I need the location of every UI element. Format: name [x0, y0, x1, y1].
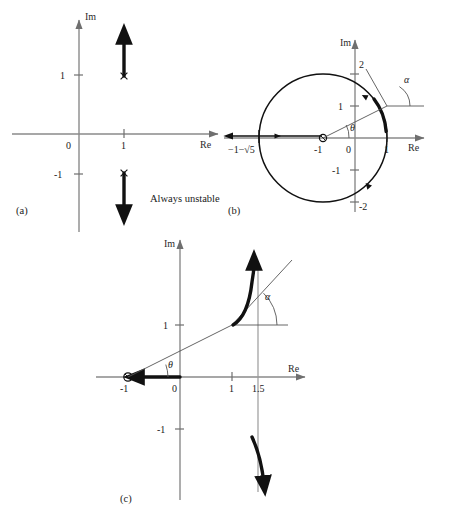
panel-c-label-zero-minus1: -1: [120, 383, 128, 394]
panel-b-locus-thick-segment: [374, 99, 386, 132]
panel-c-real-axis-label: Re: [288, 363, 300, 374]
panel-c-label-origin: 0: [172, 383, 177, 394]
panel-b-label-re-minus1: -1: [314, 144, 322, 155]
panel-b-theta-arc: [346, 125, 349, 138]
root-locus-figure: Im Re 0 1 1 -1 Always unstable (a): [0, 0, 449, 522]
panel-a-label-re-1: 1: [121, 140, 126, 151]
panel-b-caption: (b): [228, 205, 241, 217]
panel-c-caption: (c): [120, 493, 132, 505]
panel-b-label-breakaway: −1−√5: [228, 144, 255, 155]
panel-a: Im Re 0 1 1 -1 Always unstable (a): [12, 11, 220, 232]
panel-a-label-im-1: 1: [60, 70, 65, 81]
panel-c-upper-branch: [233, 262, 254, 325]
panel-b: Im Re 0 -1 1 1 2 -1 -2 −1−√5: [224, 37, 424, 217]
panel-b-imag-axis-label: Im: [340, 37, 351, 48]
panel-a-label-origin: 0: [66, 140, 71, 151]
panel-a-real-axis-label: Re: [200, 139, 212, 150]
panel-c-theta-label: θ: [168, 359, 173, 370]
panel-a-caption: (a): [16, 205, 28, 217]
panel-c-label-re-1point5: 1.5: [252, 383, 265, 394]
panel-c-label-re-1: 1: [229, 383, 234, 394]
panel-a-note: Always unstable: [150, 193, 220, 204]
panel-b-real-axis-label: Re: [408, 142, 420, 153]
panel-b-label-im-minus1: -1: [332, 165, 340, 176]
panel-b-alpha-arc: [399, 87, 410, 106]
panel-b-arrow-lower: [366, 183, 372, 190]
panel-b-theta-label: θ: [350, 122, 355, 133]
panel-c: Im Re 0 1 1.5 1 -1 -1 θ α (c): [96, 238, 305, 505]
panel-b-label-im-1: 1: [338, 101, 343, 112]
panel-b-label-im-2: 2: [359, 59, 364, 70]
panel-c-imag-axis-label: Im: [164, 238, 175, 249]
panel-c-alpha-label: α: [265, 291, 271, 302]
panel-a-imag-axis-label: Im: [85, 11, 96, 22]
panel-c-label-im-1: 1: [163, 320, 168, 331]
panel-b-arrow-upper: [362, 95, 369, 101]
panel-b-label-origin: 0: [346, 144, 351, 155]
panel-c-label-im-minus1: -1: [157, 424, 165, 435]
panel-a-label-im-minus1: -1: [54, 169, 62, 180]
panel-b-alpha-label: α: [404, 74, 410, 85]
panel-b-label-im-minus2: -2: [359, 201, 367, 212]
